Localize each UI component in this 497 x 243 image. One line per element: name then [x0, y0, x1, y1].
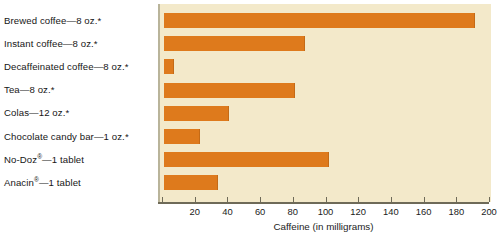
x-tick [195, 197, 196, 202]
category-label: Brewed coffee—8 oz.* [4, 15, 154, 26]
x-tick [260, 197, 261, 202]
bars-container [164, 4, 491, 202]
x-tick-label: 100 [318, 206, 334, 217]
x-tick [489, 197, 490, 202]
x-tick-label: 40 [222, 206, 232, 217]
bar-6 [164, 152, 329, 167]
x-tick-label: 140 [383, 206, 399, 217]
bar-fill [164, 59, 174, 74]
bar-fill [164, 152, 329, 167]
category-label: Decaffeinated coffee—8 oz.* [4, 61, 154, 72]
bar-0 [164, 13, 475, 28]
category-label-column: Brewed coffee—8 oz.*Instant coffee—8 oz.… [0, 0, 158, 200]
x-axis-line [158, 202, 489, 204]
x-tick [326, 197, 327, 202]
category-label: Chocolate candy bar—1 oz.* [4, 131, 154, 142]
bar-fill [164, 36, 305, 51]
x-tick [456, 197, 457, 202]
bar-3 [164, 83, 295, 98]
bar-fill [164, 83, 295, 98]
x-tick-label: 60 [255, 206, 265, 217]
x-tick-label: 200 [481, 206, 497, 217]
x-tick [424, 197, 425, 202]
x-tick [162, 197, 163, 202]
bar-fill [164, 106, 229, 121]
bar-2 [164, 59, 174, 74]
bar-1 [164, 36, 305, 51]
x-tick-label: 120 [350, 206, 366, 217]
bar-7 [164, 175, 218, 190]
x-axis-title: Caffeine (in milligrams) [158, 221, 489, 232]
x-tick-label: 160 [416, 206, 432, 217]
category-label: Instant coffee—8 oz.* [4, 38, 154, 49]
x-tick [293, 197, 294, 202]
registered-trademark-icon: ® [34, 176, 39, 183]
x-axis: Caffeine (in milligrams) 204060801001201… [158, 202, 489, 243]
bar-fill [164, 13, 475, 28]
category-label: No-Doz®—1 tablet [4, 154, 154, 165]
plot-area [158, 4, 491, 202]
x-tick-label: 20 [189, 206, 199, 217]
category-label: Colas—12 oz.* [4, 107, 154, 118]
bar-fill [164, 129, 200, 144]
category-label: Tea—8 oz.* [4, 84, 154, 95]
x-tick [227, 197, 228, 202]
category-label: Anacin®—1 tablet [4, 177, 154, 188]
registered-trademark-icon: ® [37, 153, 42, 160]
bar-4 [164, 106, 229, 121]
x-tick [391, 197, 392, 202]
x-tick-label: 80 [288, 206, 298, 217]
x-tick-label: 180 [448, 206, 464, 217]
x-tick [358, 197, 359, 202]
bar-fill [164, 175, 218, 190]
bar-5 [164, 129, 200, 144]
